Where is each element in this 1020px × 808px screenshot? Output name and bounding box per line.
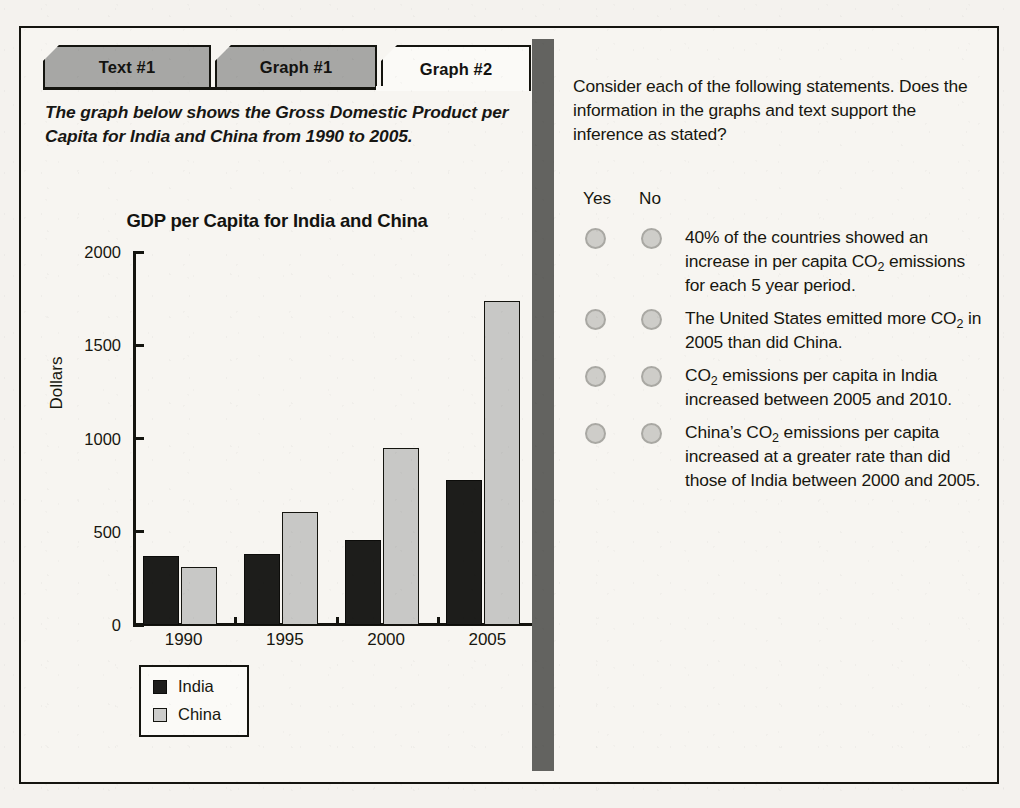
statement-row: The United States emitted more CO2 in 20… <box>573 305 985 354</box>
question-prompt: Consider each of the following statement… <box>573 74 979 146</box>
tab-label: Graph #2 <box>420 60 492 79</box>
subscript: 2 <box>956 317 963 331</box>
x-tick-mark <box>234 617 237 626</box>
x-tick-mark <box>133 617 136 626</box>
question-panel: Consider each of the following statement… <box>573 28 985 782</box>
statement-text: China’s CO2 emissions per capita increas… <box>685 419 985 492</box>
legend-label: China <box>178 705 221 724</box>
bars-layer <box>21 28 533 626</box>
legend-entry-india: India <box>153 677 235 696</box>
legend-label: India <box>178 677 214 696</box>
legend-swatch-china <box>153 708 167 722</box>
radio-yes-1[interactable] <box>585 228 606 249</box>
statement-row: 40% of the countries showed an increase … <box>573 224 985 297</box>
statement-list: 40% of the countries showed an increase … <box>573 224 985 500</box>
column-header-no: No <box>639 188 661 209</box>
bar-china-1995 <box>282 512 318 625</box>
subscript: 2 <box>711 374 718 388</box>
legend-swatch-india <box>153 680 167 694</box>
radio-no-1[interactable] <box>641 228 662 249</box>
subscript: 2 <box>877 260 884 274</box>
bar-china-2005 <box>484 301 520 625</box>
statement-text: 40% of the countries showed an increase … <box>685 224 985 297</box>
bar-india-1995 <box>244 554 280 625</box>
statement-row: CO2 emissions per capita in India increa… <box>573 362 985 411</box>
content-frame: Text #1Graph #1Graph #2 The graph below … <box>19 26 999 784</box>
statement-text: The United States emitted more CO2 in 20… <box>685 305 985 354</box>
subscript: 2 <box>772 431 779 445</box>
radio-yes-3[interactable] <box>585 366 606 387</box>
tab-graph-2[interactable]: Graph #2 <box>381 45 531 91</box>
bar-india-2000 <box>345 540 381 625</box>
statement-row: China’s CO2 emissions per capita increas… <box>573 419 985 492</box>
legend-entry-china: China <box>153 705 235 724</box>
column-header-yes: Yes <box>583 188 611 209</box>
panel-divider-bar <box>532 39 554 771</box>
x-tick-label: 1995 <box>240 630 330 650</box>
bar-china-2000 <box>383 448 419 625</box>
bar-china-1990 <box>181 567 217 625</box>
radio-no-3[interactable] <box>641 366 662 387</box>
radio-yes-4[interactable] <box>585 423 606 444</box>
x-tick-label: 2005 <box>442 630 532 650</box>
bar-india-2005 <box>446 480 482 625</box>
x-tick-label: 1990 <box>139 630 229 650</box>
radio-yes-2[interactable] <box>585 309 606 330</box>
x-tick-label: 2000 <box>341 630 431 650</box>
statement-text: CO2 emissions per capita in India increa… <box>685 362 985 411</box>
x-tick-mark <box>437 617 440 626</box>
radio-no-2[interactable] <box>641 309 662 330</box>
bar-chart: Dollars 0500100015002000 199019952000200… <box>21 28 533 786</box>
radio-no-4[interactable] <box>641 423 662 444</box>
stimulus-panel: Text #1Graph #1Graph #2 The graph below … <box>21 28 533 782</box>
bar-india-1990 <box>143 556 179 625</box>
chart-legend: IndiaChina <box>139 665 249 737</box>
x-tick-mark <box>336 617 339 626</box>
active-tab-underline-gap <box>376 86 523 91</box>
